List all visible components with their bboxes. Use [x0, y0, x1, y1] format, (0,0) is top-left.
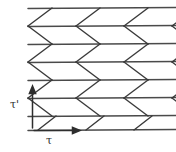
- diagonal-line: [28, 44, 52, 62]
- diagonal-line: [172, 62, 176, 65]
- diagonal-band: [28, 26, 176, 44]
- diagonal-line: [124, 26, 148, 44]
- diagonal-line: [172, 26, 176, 29]
- diagonal-line: [28, 26, 52, 44]
- horizontal-axis-label: τ: [46, 135, 52, 146]
- horizontal-line: [28, 98, 176, 99]
- diagonal-line: [28, 8, 52, 26]
- diagonal-line: [38, 116, 56, 130]
- horizontal-line: [28, 26, 176, 27]
- diagonal-band: [28, 98, 176, 116]
- diagonal-line: [76, 80, 100, 98]
- diagonal-band: [28, 62, 176, 80]
- vertical-axis-label: τ': [10, 99, 19, 110]
- lattice-drawing: [0, 0, 176, 152]
- diagonal-line: [124, 98, 148, 116]
- diagonal-line: [76, 26, 100, 44]
- diagonal-band: [28, 80, 176, 98]
- diagonal-line: [28, 62, 52, 80]
- horizontal-line: [28, 80, 176, 81]
- diagonal-line: [124, 44, 148, 62]
- vertical-axis-arrowhead: [29, 86, 35, 94]
- horizontal-line: [28, 44, 176, 45]
- diagonal-line: [172, 98, 176, 101]
- horizontal-axis-arrowhead: [73, 127, 81, 133]
- horizontal-line: [28, 8, 176, 9]
- diagonal-line: [76, 44, 100, 62]
- diagonal-band: [38, 116, 152, 130]
- diagonal-band: [28, 8, 176, 26]
- diagonal-line: [28, 98, 52, 116]
- horizontal-lines-group: [28, 8, 176, 131]
- horizontal-line: [28, 116, 176, 117]
- diagonal-band: [28, 44, 176, 62]
- horizontal-line: [28, 62, 176, 63]
- diagonal-line: [76, 8, 100, 26]
- diagonal-line: [134, 116, 152, 130]
- figure-container: τ' τ: [0, 0, 176, 152]
- diagonal-line: [76, 98, 100, 116]
- diagonal-line: [124, 80, 148, 98]
- diagonal-line: [86, 116, 104, 130]
- diagonal-line: [124, 62, 148, 80]
- diagonal-line: [76, 62, 100, 80]
- axis-arrows-group: [29, 86, 80, 134]
- diagonal-line: [124, 8, 148, 26]
